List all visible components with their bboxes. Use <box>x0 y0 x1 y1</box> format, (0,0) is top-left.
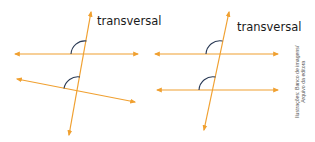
credit-line-2: Arquivo da editora <box>300 46 306 118</box>
transversal-label-left: transversal <box>97 14 161 28</box>
figure-non-parallel <box>15 12 138 135</box>
transversal-line <box>69 12 91 135</box>
transversal-label-right: transversal <box>237 20 301 34</box>
transversal-line <box>204 12 229 130</box>
image-credit: Ilustrações: Banco de imagens/ Arquivo d… <box>294 46 306 118</box>
